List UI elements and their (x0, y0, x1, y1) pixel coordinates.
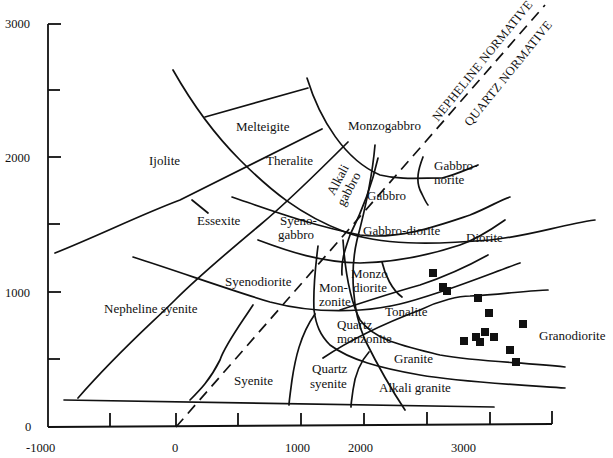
sample-point (460, 337, 468, 345)
field-syenogabbro-line2: gabbro (278, 227, 314, 242)
field-essexite: Essexite (197, 213, 241, 228)
field-syenogabbro-line1: Syeno- (280, 213, 317, 228)
field-tonalite: Tonalite (385, 304, 428, 319)
field-gabbro-norite-line1: Gabbro- (434, 158, 477, 173)
y-tick-2000: 2000 (5, 151, 30, 165)
x-tick-neg1000: -1000 (26, 441, 55, 455)
x-axis (48, 411, 552, 427)
field-quartz-syenite-line1: Quartz (312, 361, 348, 376)
field-quartz-syenite-line2: syenite (310, 376, 347, 391)
field-diorite: Diorite (466, 230, 503, 245)
sample-point (490, 333, 498, 341)
x-tick-0: 0 (172, 441, 178, 455)
y-tick-3000: 3000 (5, 17, 30, 31)
field-quartz-monzonite-line2: monzonite (337, 331, 392, 346)
x-tick-2000: 2000 (348, 441, 373, 455)
sample-point (476, 338, 484, 346)
field-gabbro-diorite: Gabbro-diorite (363, 223, 440, 238)
field-quartz-monzonite-line1: Quartz (337, 317, 373, 332)
field-monzogabbro: Monzogabbro (348, 118, 421, 133)
field-gabbro-norite-line2: norite (434, 172, 465, 187)
y-axis (48, 24, 61, 427)
sample-point (443, 287, 451, 295)
field-syenodiorite: Syenodiorite (225, 274, 292, 289)
sample-point (474, 294, 482, 302)
field-nepheline-syenite: Nepheline syenite (104, 301, 198, 316)
x-tick-3000: 3000 (451, 441, 476, 455)
field-melteigite: Melteigite (236, 119, 290, 134)
field-theralite: Theralite (266, 153, 313, 168)
field-gabbro: Gabbro (367, 188, 406, 203)
field-syenite: Syenite (234, 373, 273, 388)
field-monzodiorite-line1: Monzo (351, 266, 388, 281)
field-granodiorite: Granodiorite (539, 328, 606, 343)
lower-boundary-line (64, 400, 494, 407)
x-tick-1000: 1000 (285, 441, 310, 455)
sample-point (429, 269, 437, 277)
sample-point (481, 328, 489, 336)
y-tick-0: 0 (25, 420, 31, 434)
sample-point (519, 320, 527, 328)
r1-r2-classification-diagram: 3000 2000 1000 0 -1000 0 1000 2000 3000 (0, 0, 613, 458)
y-tick-1000: 1000 (5, 286, 30, 300)
sample-point (506, 346, 514, 354)
field-ijolite: Ijolite (149, 153, 180, 168)
field-monzodiorite-line2: diorite (353, 280, 387, 295)
sample-points (429, 269, 527, 366)
field-granite: Granite (394, 351, 433, 366)
field-monzonite-line1: Mon- (319, 280, 348, 295)
sample-point (512, 358, 520, 366)
field-alkali-granite: Alkali granite (379, 380, 451, 395)
field-monzonite-line2: zonite (319, 294, 351, 309)
sample-point (485, 309, 493, 317)
